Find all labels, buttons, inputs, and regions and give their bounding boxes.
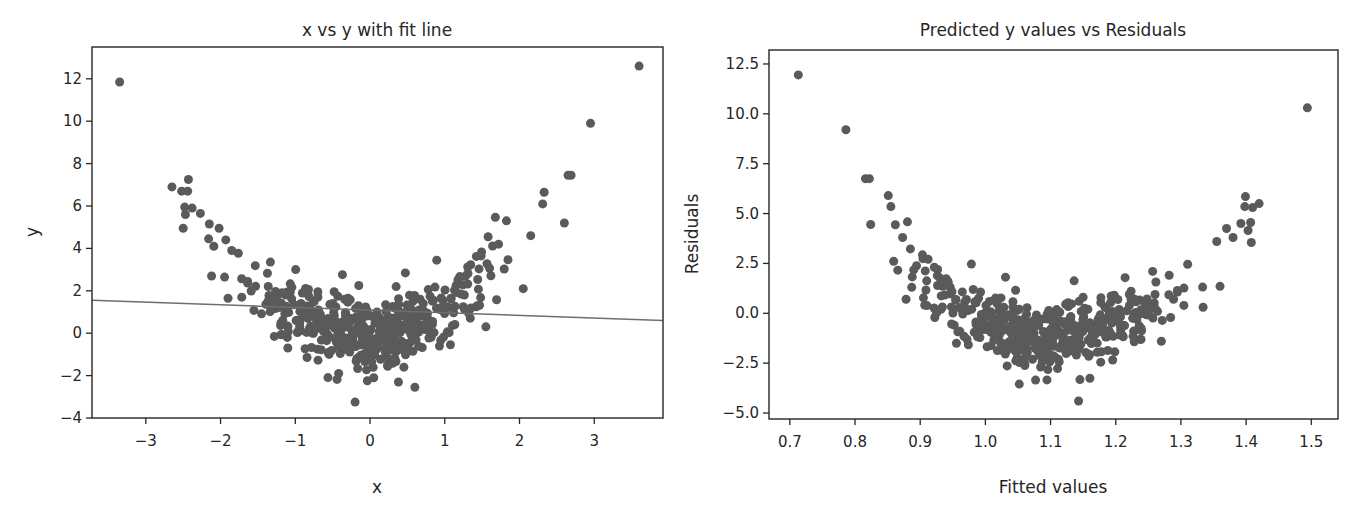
data-point bbox=[1166, 313, 1175, 322]
data-point bbox=[1085, 334, 1094, 343]
data-point bbox=[429, 296, 438, 305]
data-point bbox=[224, 294, 233, 303]
x-tick-label: 1.0 bbox=[973, 433, 997, 451]
data-point bbox=[560, 218, 569, 227]
data-point bbox=[1198, 283, 1207, 292]
data-point bbox=[884, 191, 893, 200]
data-point bbox=[303, 353, 312, 362]
data-point bbox=[361, 339, 370, 348]
data-point bbox=[1085, 374, 1094, 383]
data-point bbox=[526, 231, 535, 240]
x-axis-label: Fitted values bbox=[999, 477, 1108, 497]
x-tick-label: 0.9 bbox=[908, 433, 932, 451]
x-axis-label: x bbox=[372, 477, 382, 497]
data-point bbox=[430, 283, 439, 292]
data-point bbox=[1009, 308, 1018, 317]
data-point bbox=[1128, 314, 1137, 323]
data-point bbox=[441, 286, 450, 295]
data-point bbox=[452, 288, 461, 297]
data-point bbox=[977, 319, 986, 328]
data-point bbox=[249, 306, 258, 315]
y-tick-label: 0 bbox=[72, 324, 82, 342]
data-point bbox=[841, 125, 850, 134]
data-point bbox=[1042, 375, 1051, 384]
data-point bbox=[251, 282, 260, 291]
y-tick-label: 4 bbox=[72, 239, 82, 257]
data-point bbox=[540, 188, 549, 197]
data-point bbox=[184, 175, 193, 184]
data-point bbox=[1183, 260, 1192, 269]
data-point bbox=[922, 301, 931, 310]
x-tick-label: 0 bbox=[365, 432, 375, 450]
data-point bbox=[1118, 331, 1127, 340]
data-point bbox=[1247, 238, 1256, 247]
data-point bbox=[399, 363, 408, 372]
data-point bbox=[283, 288, 292, 297]
data-point bbox=[999, 316, 1008, 325]
x-tick-label: 2 bbox=[515, 432, 525, 450]
data-point bbox=[1096, 358, 1105, 367]
data-point bbox=[866, 220, 875, 229]
data-point bbox=[392, 329, 401, 338]
data-point bbox=[338, 320, 347, 329]
data-point bbox=[906, 244, 915, 253]
data-point bbox=[1096, 293, 1105, 302]
data-point bbox=[251, 261, 260, 270]
scatter-chart-fitted-vs-residuals: Predicted y values vs Residuals 0.70.80.… bbox=[682, 20, 1338, 497]
x-tick-label: −3 bbox=[135, 432, 157, 450]
y-axis-label: Residuals bbox=[682, 194, 702, 275]
y-tick-label: −4 bbox=[60, 409, 82, 427]
y-tick-label: 7.5 bbox=[735, 155, 759, 173]
data-point bbox=[472, 302, 481, 311]
data-point bbox=[902, 295, 911, 304]
y-tick-label: 6 bbox=[72, 197, 82, 215]
data-point bbox=[294, 326, 303, 335]
data-point bbox=[323, 373, 332, 382]
data-point bbox=[408, 347, 417, 356]
data-point bbox=[266, 258, 275, 267]
data-point bbox=[1031, 376, 1040, 385]
data-point bbox=[1011, 342, 1020, 351]
data-point bbox=[1028, 333, 1037, 342]
data-point bbox=[446, 340, 455, 349]
data-point bbox=[392, 282, 401, 291]
data-point bbox=[402, 314, 411, 323]
data-point bbox=[997, 305, 1006, 314]
data-point bbox=[115, 77, 124, 86]
data-point bbox=[307, 343, 316, 352]
data-point bbox=[1079, 293, 1088, 302]
data-point bbox=[1043, 365, 1052, 374]
data-point bbox=[1010, 330, 1019, 339]
data-point bbox=[1070, 276, 1079, 285]
data-point bbox=[473, 275, 482, 284]
data-point bbox=[353, 364, 362, 373]
y-tick-label: −2.5 bbox=[723, 354, 759, 372]
data-point bbox=[567, 171, 576, 180]
x-axis-ticks: −3−2−10123 bbox=[135, 418, 599, 450]
data-point bbox=[354, 281, 363, 290]
data-point bbox=[889, 257, 898, 266]
data-point bbox=[492, 295, 501, 304]
data-point bbox=[1019, 336, 1028, 345]
data-point bbox=[1044, 356, 1053, 365]
data-point bbox=[375, 313, 384, 322]
data-point bbox=[1093, 348, 1102, 357]
data-point bbox=[370, 337, 379, 346]
data-point bbox=[1143, 294, 1152, 303]
data-point bbox=[933, 271, 942, 280]
data-point bbox=[1109, 332, 1118, 341]
data-point bbox=[1137, 335, 1146, 344]
data-point bbox=[459, 302, 468, 311]
data-point bbox=[419, 299, 428, 308]
data-point bbox=[476, 293, 485, 302]
data-point bbox=[1045, 340, 1054, 349]
data-point bbox=[383, 362, 392, 371]
data-point bbox=[183, 187, 192, 196]
data-point bbox=[945, 289, 954, 298]
data-point bbox=[1122, 306, 1131, 315]
x-tick-label: 1 bbox=[440, 432, 450, 450]
data-point bbox=[382, 307, 391, 316]
data-point bbox=[263, 269, 272, 278]
data-point bbox=[353, 303, 362, 312]
data-point bbox=[381, 321, 390, 330]
